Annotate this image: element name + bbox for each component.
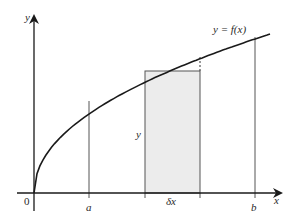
x-axis-label: x xyxy=(273,194,279,206)
strip-height-label: y xyxy=(135,128,141,140)
y-axis-label: y xyxy=(24,11,30,23)
curve-label: y = f(x) xyxy=(212,23,246,36)
strip-rectangle xyxy=(145,71,200,193)
origin-label: 0 xyxy=(24,195,30,207)
strip-width-label: δx xyxy=(166,195,176,207)
area-under-curve-diagram: y x 0 a b δx y y = f(x) xyxy=(0,0,293,223)
marker-a-label: a xyxy=(86,201,92,213)
marker-b-label: b xyxy=(251,201,257,213)
